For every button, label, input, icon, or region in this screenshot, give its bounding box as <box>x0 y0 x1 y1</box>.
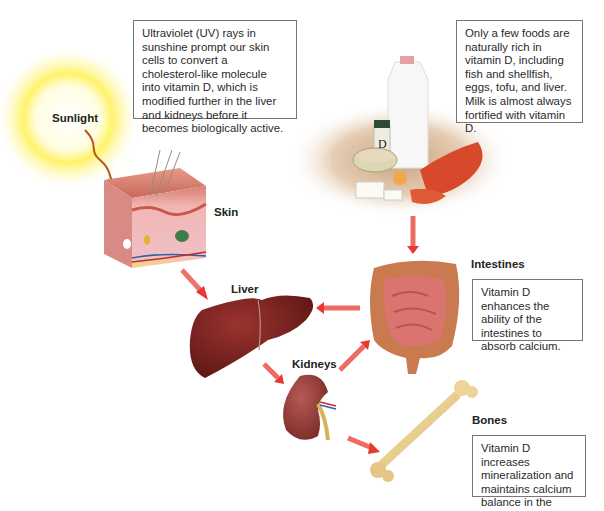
label-liver: Liver <box>231 283 259 295</box>
callout-bones: Vitamin D increases mineralization and m… <box>472 435 586 497</box>
kidney-illustration <box>283 375 336 440</box>
callout-intestines: Vitamin D enhances the ability of the in… <box>472 279 583 341</box>
arrow-kidneys-to-bones <box>348 438 380 454</box>
intestines-illustration <box>370 261 459 374</box>
callout-uv: Ultraviolet (UV) rays in sunshine prompt… <box>133 20 297 119</box>
arrow-kidneys-to-intestines <box>340 340 370 370</box>
label-kidneys: Kidneys <box>292 358 337 370</box>
arrow-liver-to-kidneys <box>264 364 284 384</box>
callout-foods: Only a few foods are naturally rich in v… <box>456 20 583 123</box>
arrow-skin-to-liver <box>182 270 208 300</box>
label-bones: Bones <box>472 414 507 426</box>
label-skin: Skin <box>214 206 238 218</box>
arrow-foods-to-intestines <box>407 216 419 254</box>
bone-illustration <box>370 380 478 482</box>
label-sunlight: Sunlight <box>52 112 98 124</box>
label-intestines: Intestines <box>471 258 525 270</box>
arrow-intestines-to-liver <box>316 302 360 314</box>
